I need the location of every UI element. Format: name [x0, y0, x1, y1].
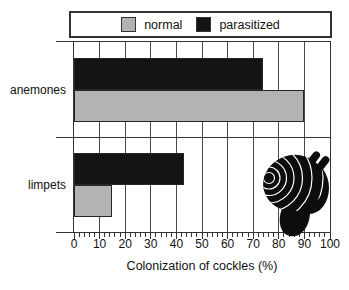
- bar-anemones-normal: [74, 90, 304, 122]
- umbo-knob: [264, 174, 273, 183]
- x-minor-tick: [186, 233, 187, 237]
- x-minor-tick: [171, 233, 172, 237]
- legend-item-normal: normal: [121, 17, 182, 32]
- legend-item-parasitized: parasitized: [196, 17, 279, 32]
- x-tick-label-70: 70: [247, 238, 260, 251]
- top-frame-overhang: [56, 41, 73, 42]
- x-minor-tick: [248, 233, 249, 237]
- x-minor-tick: [114, 233, 115, 237]
- x-tick-label-30: 30: [144, 238, 157, 251]
- x-minor-tick: [84, 233, 85, 237]
- x-tick-label-90: 90: [298, 238, 311, 251]
- x-minor-tick: [79, 233, 80, 237]
- x-tick-label-0: 0: [71, 238, 78, 251]
- figure: normal parasitized 010203040506070809010…: [0, 0, 349, 290]
- x-tick-label-40: 40: [170, 238, 183, 251]
- x-tick-label-80: 80: [272, 238, 285, 251]
- x-minor-tick: [258, 233, 259, 237]
- cockle-illustration: [262, 150, 332, 237]
- x-minor-tick: [242, 233, 243, 237]
- bar-anemones-parasitized: [74, 58, 263, 90]
- x-minor-tick: [181, 233, 182, 237]
- parasitized-swatch-icon: [196, 17, 211, 32]
- legend-label-parasitized: parasitized: [219, 18, 279, 32]
- x-minor-tick: [191, 233, 192, 237]
- x-minor-tick: [140, 233, 141, 237]
- normal-swatch-icon: [121, 17, 136, 32]
- x-tick-label-100: 100: [320, 238, 340, 251]
- x-minor-tick: [222, 233, 223, 237]
- category-divider: [56, 137, 330, 138]
- x-tick-label-20: 20: [119, 238, 132, 251]
- category-label-anemones: anemones: [0, 83, 66, 97]
- x-tick-label-50: 50: [195, 238, 208, 251]
- x-minor-tick: [207, 233, 208, 237]
- x-minor-tick: [196, 233, 197, 237]
- category-label-limpets: limpets: [0, 178, 66, 192]
- x-minor-tick: [217, 233, 218, 237]
- x-tick-label-10: 10: [93, 238, 106, 251]
- x-minor-tick: [135, 233, 136, 237]
- x-minor-tick: [120, 233, 121, 237]
- x-minor-tick: [109, 233, 110, 237]
- x-minor-tick: [166, 233, 167, 237]
- x-minor-tick: [104, 233, 105, 237]
- bar-limpets-parasitized: [74, 153, 184, 185]
- x-tick-label-60: 60: [221, 238, 234, 251]
- x-minor-tick: [130, 233, 131, 237]
- x-minor-tick: [89, 233, 90, 237]
- x-minor-tick: [145, 233, 146, 237]
- x-minor-tick: [212, 233, 213, 237]
- legend: normal parasitized: [69, 11, 332, 38]
- bar-limpets-normal: [74, 185, 112, 217]
- x-axis-title: Colonization of cockles (%): [73, 259, 331, 273]
- x-minor-tick: [232, 233, 233, 237]
- x-minor-tick: [237, 233, 238, 237]
- x-minor-tick: [155, 233, 156, 237]
- axis-overhang: [56, 232, 73, 233]
- legend-label-normal: normal: [144, 18, 182, 32]
- x-minor-tick: [94, 233, 95, 237]
- x-minor-tick: [161, 233, 162, 237]
